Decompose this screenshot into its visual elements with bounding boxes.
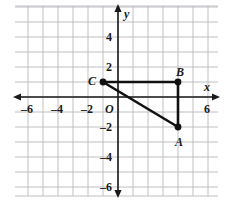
x-axis-label: x — [204, 81, 210, 93]
triangle-shape — [103, 82, 178, 127]
axes — [13, 4, 220, 198]
x-tick-label--2: –2 — [81, 103, 93, 115]
y-tick-label-4: 4 — [106, 31, 112, 43]
x-tick-label-6: 6 — [204, 103, 210, 115]
y-tick-label-2: 2 — [106, 61, 112, 73]
y-tick-label--2: –2 — [100, 121, 112, 133]
y-axis-label: y — [124, 8, 129, 20]
point-label-A: A — [175, 136, 183, 148]
coordinate-plane-figure: –6–4–2642–2–4–6OxyABC — [0, 0, 230, 209]
x-tick-label--6: –6 — [21, 103, 33, 115]
point-label-C: C — [88, 75, 96, 87]
y-tick-label--4: –4 — [100, 151, 112, 163]
y-tick-label--6: –6 — [100, 181, 112, 193]
origin-label: O — [105, 103, 114, 115]
x-tick-label--4: –4 — [51, 103, 63, 115]
point-label-B: B — [176, 66, 184, 78]
coordinate-plane-svg — [0, 0, 230, 209]
grid-lines — [15, 6, 218, 196]
